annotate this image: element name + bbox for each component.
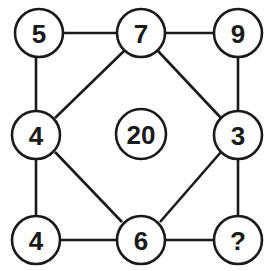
- edge-3-6: [160, 152, 221, 222]
- node-bottom-left: 4: [12, 216, 60, 264]
- number-puzzle-diagram: 5 7 9 4 20 3 4 6 ?: [0, 0, 278, 271]
- node-middle-right: 3: [214, 111, 262, 159]
- node-value: 9: [231, 19, 245, 49]
- node-middle-left: 4: [12, 111, 60, 159]
- node-value: 4: [29, 226, 44, 256]
- node-top-left: 5: [15, 9, 63, 57]
- edge-4-6: [55, 152, 122, 222]
- node-top-right: 9: [214, 9, 262, 57]
- node-value: 20: [127, 120, 156, 150]
- node-value: 4: [29, 121, 44, 151]
- node-value: 5: [32, 19, 46, 49]
- edge-7-3: [158, 51, 221, 118]
- node-top-center: 7: [117, 9, 165, 57]
- node-value: ?: [230, 226, 246, 256]
- node-value: 7: [134, 19, 148, 49]
- edge-7-4: [55, 51, 124, 118]
- node-bottom-right-unknown: ?: [214, 216, 262, 264]
- node-value: 6: [134, 226, 148, 256]
- node-bottom-center: 6: [117, 216, 165, 264]
- node-value: 3: [231, 121, 245, 151]
- node-center: 20: [116, 109, 166, 159]
